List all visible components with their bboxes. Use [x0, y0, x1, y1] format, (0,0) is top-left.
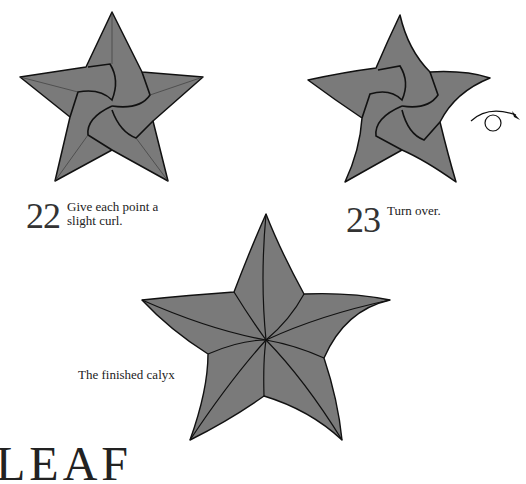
step-number: 22: [26, 199, 60, 233]
finished-calyx-figure: [130, 200, 410, 463]
section-heading: LEAF: [0, 440, 132, 484]
turn-over-arrow-icon: [468, 103, 526, 138]
star-figure-22: [0, 0, 250, 190]
final-caption: The finished calyx: [78, 367, 175, 383]
star-figure-23: [290, 0, 526, 190]
